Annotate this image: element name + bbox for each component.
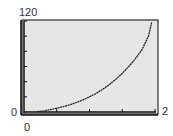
x-min-label: 0 (24, 122, 30, 133)
graph-plot (0, 0, 173, 136)
plot-area (22, 20, 158, 114)
y-min-label: 0 (11, 107, 17, 118)
y-max-label: 120 (19, 7, 37, 18)
x-max-label: 2 (162, 106, 168, 117)
